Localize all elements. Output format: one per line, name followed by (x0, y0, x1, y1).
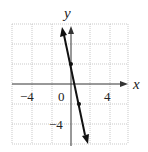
point-0-2 (69, 62, 73, 66)
x-tick-4: 4 (104, 90, 111, 103)
x-tick-0: 0 (58, 90, 65, 103)
x-tick-neg4: −4 (20, 90, 34, 103)
y-axis-label: y (64, 6, 71, 21)
coordinate-plane (0, 0, 148, 152)
x-axis-arrow-icon (120, 81, 128, 87)
x-axis-label: x (133, 77, 140, 92)
point-1-neg2 (77, 102, 81, 106)
y-tick-neg4: −4 (49, 118, 63, 131)
line-series (60, 27, 89, 144)
line-arrow-bottom-icon (82, 134, 89, 144)
line-arrow-top-icon (60, 27, 67, 37)
y-axis-arrow-icon (68, 26, 74, 34)
